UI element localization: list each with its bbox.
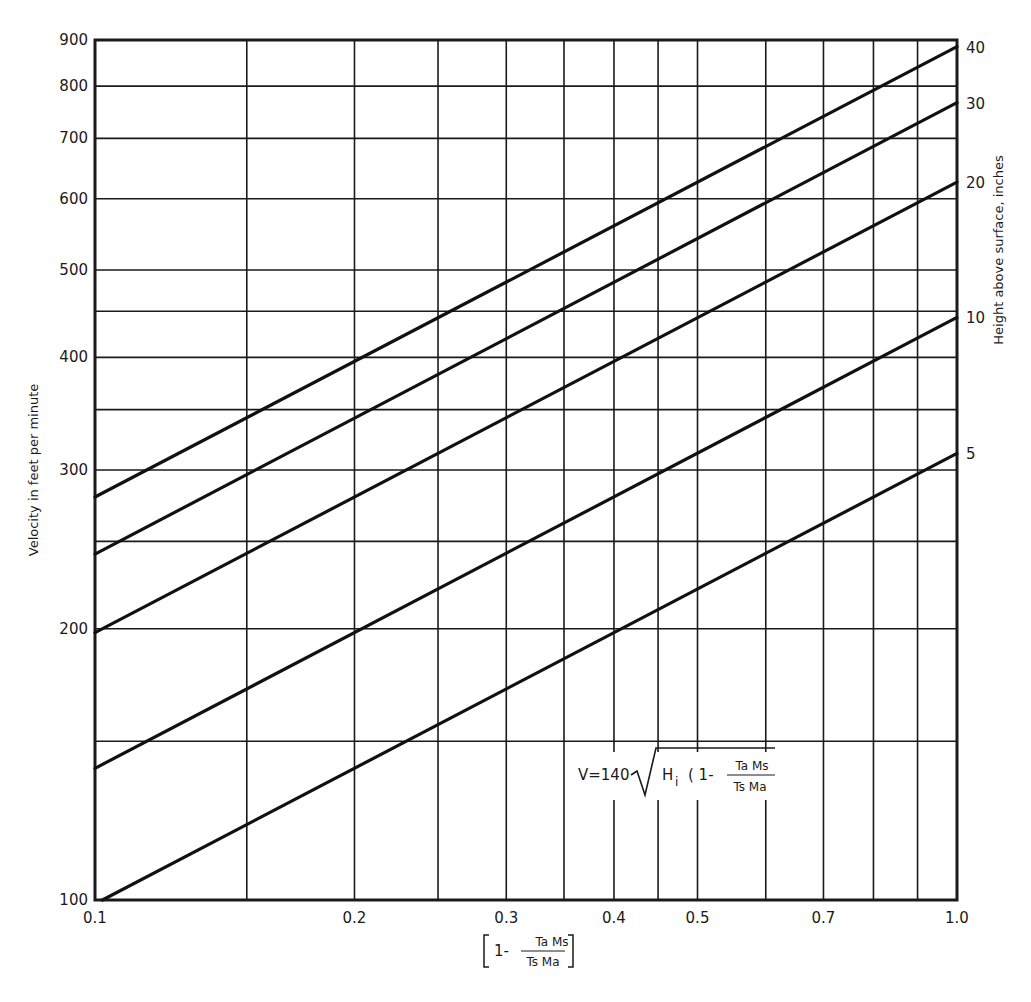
y-tick-label: 900 [59,31,88,49]
series-line-20 [95,182,957,633]
formula-paren: ( 1- [688,766,714,784]
height-label-5: 5 [966,445,976,463]
height-label-30: 30 [966,95,985,113]
series-lines [95,47,957,900]
left-bracket [484,935,489,967]
x-axis-title: 1- Ta Ms Ts Ma [484,935,573,969]
right-bracket [568,935,573,967]
x-axis-title-numerator: Ta Ms [534,935,568,949]
y-tick-labels: 100200300400500600700800900 [59,31,88,909]
y-tick-label: 700 [59,129,88,147]
y-tick-label: 600 [59,190,88,208]
x-tick-label: 0.4 [602,909,626,927]
x-axis-title-prefix: 1- [494,942,509,960]
y-tick-label: 400 [59,348,88,366]
series-line-30 [95,103,957,555]
formula-hi-subscript: i [675,775,678,789]
height-label-20: 20 [966,174,985,192]
x-tick-label: 1.0 [945,909,969,927]
y-tick-label: 200 [59,620,88,638]
formula-annotation: V=140 H i ( 1- Ta Ms Ts Ma [574,748,775,800]
y-tick-label: 100 [59,891,88,909]
velocity-chart: 100200300400500600700800900 0.10.20.30.4… [0,0,1031,1002]
formula-denominator: Ts Ma [732,780,766,794]
x-tick-labels: 0.10.20.30.40.50.71.0 [83,909,969,927]
y-axis-title: Velocity in feet per minute [26,384,41,557]
series-line-5 [102,453,957,900]
formula-hi: H [662,766,673,784]
height-label-40: 40 [966,39,985,57]
series-line-40 [95,47,957,497]
x-tick-label: 0.2 [343,909,367,927]
series-line-10 [95,317,957,768]
y-tick-label: 300 [59,461,88,479]
x-tick-label: 0.7 [812,909,836,927]
formula-lhs: V=140 [578,766,629,784]
x-tick-label: 0.5 [686,909,710,927]
x-tick-label: 0.3 [494,909,518,927]
y-tick-label: 500 [59,261,88,279]
x-axis-title-denominator: Ts Ma [525,955,559,969]
formula-numerator: Ta Ms [734,759,768,773]
y-tick-label: 800 [59,77,88,95]
y2-axis-title: Height above surface, inches [991,155,1006,345]
height-labels: 403020105 [966,39,985,464]
height-label-10: 10 [966,309,985,327]
x-tick-label: 0.1 [83,909,107,927]
